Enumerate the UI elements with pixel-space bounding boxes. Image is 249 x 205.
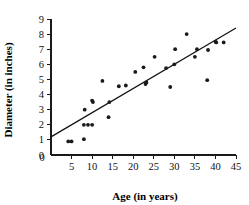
data-point bbox=[206, 48, 210, 52]
y-axis-tick-label: 5 bbox=[39, 74, 44, 85]
data-point bbox=[195, 47, 199, 51]
data-point bbox=[153, 55, 157, 59]
data-point bbox=[172, 62, 176, 66]
data-point bbox=[205, 78, 209, 82]
data-point bbox=[90, 123, 94, 127]
y-axis-tick-label: 1 bbox=[39, 134, 44, 145]
y-axis-tick-label: 4 bbox=[39, 89, 45, 100]
x-axis-tick-label: 40 bbox=[210, 161, 221, 172]
y-axis-tick-label: 6 bbox=[39, 59, 44, 70]
data-point bbox=[70, 140, 74, 144]
data-point bbox=[90, 99, 94, 103]
data-point bbox=[173, 47, 177, 51]
x-axis-tick-label: 0 bbox=[39, 152, 44, 163]
line-of-best-fit bbox=[51, 28, 236, 137]
data-point bbox=[222, 41, 226, 45]
y-axis-title: Diameter (in inches) bbox=[2, 42, 15, 137]
y-axis-tick-label: 2 bbox=[39, 119, 44, 130]
data-point bbox=[142, 65, 146, 69]
data-point bbox=[214, 41, 218, 45]
data-point bbox=[107, 115, 111, 119]
data-point bbox=[83, 108, 87, 112]
x-axis-tick-label: 10 bbox=[87, 161, 98, 172]
data-point bbox=[66, 140, 70, 144]
x-axis-title: Age (in years) bbox=[112, 190, 178, 203]
y-axis-tick-label: 7 bbox=[39, 44, 44, 55]
x-axis-tick-label: 35 bbox=[190, 161, 201, 172]
x-axis-tick-label: 15 bbox=[107, 161, 118, 172]
data-point bbox=[117, 84, 121, 88]
data-point bbox=[144, 81, 148, 85]
y-axis-tick-label: 9 bbox=[39, 14, 44, 25]
x-axis-tick-label: 45 bbox=[231, 161, 242, 172]
data-point bbox=[168, 85, 172, 89]
data-point bbox=[82, 123, 86, 127]
data-point bbox=[86, 123, 90, 127]
data-point bbox=[100, 79, 104, 83]
y-axis-tick-label: 8 bbox=[39, 29, 44, 40]
x-axis: 051015202530354045 bbox=[39, 152, 241, 172]
data-point bbox=[133, 70, 137, 74]
data-point bbox=[185, 32, 189, 36]
chart-canvas: 0123456789 051015202530354045 Age (in ye… bbox=[0, 0, 249, 205]
x-axis-tick-label: 20 bbox=[128, 161, 139, 172]
x-axis-tick-label: 30 bbox=[169, 161, 180, 172]
data-point bbox=[164, 66, 168, 70]
y-axis: 0123456789 bbox=[39, 14, 51, 161]
data-point bbox=[124, 84, 128, 88]
data-point bbox=[82, 137, 86, 141]
data-point bbox=[107, 100, 111, 104]
scatter-plot-figure: 0123456789 051015202530354045 Age (in ye… bbox=[0, 0, 249, 205]
y-axis-tick-label: 3 bbox=[39, 104, 44, 115]
data-point bbox=[193, 55, 197, 59]
x-axis-tick-label: 25 bbox=[149, 161, 160, 172]
x-axis-tick-label: 5 bbox=[69, 161, 74, 172]
regression-line bbox=[51, 28, 236, 137]
